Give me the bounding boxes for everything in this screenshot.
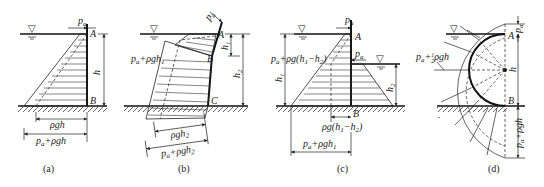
pressure-hatching [299,40,389,100]
label-rho-gh: ρgh [49,119,65,130]
label-rho-g-h1-h2: ρg(h1−h2) [321,121,363,134]
point-a: A [217,29,225,40]
label-pa-plus-half-rho-gh: pa+12ρgh [415,51,449,64]
radial-pressure-lines [434,26,505,155]
pressure-hatching [148,38,214,116]
svg-text:.: . [438,109,441,120]
panel-a: ▽ pa A B h ρgh pa+ρgh (a) [18,15,108,175]
water-surface-icon: ▽ [450,23,458,34]
caption-a: (a) [43,163,54,175]
label-h: h [507,67,518,72]
label-h1: h1 [219,42,232,51]
panel-b: ▽ pa A B C h1 h2 pa+ρgh1 [124,8,250,175]
caption-c: (c) [337,163,348,175]
pressure-hatching [35,40,86,100]
panel-c: ▽ ▽ pa A pa B pa+ρg(h1−h2) h1 [270,14,405,175]
point-a: A [354,31,362,42]
label-pa-plus-rho-gh1: pa+ρgh1 [302,138,337,151]
point-a: A [89,28,97,39]
label-h: h [91,70,102,75]
label-pa-plus-rho-gh: pa+ρgh [513,118,526,149]
water-surface-icon: ▽ [298,23,306,34]
water-surface-icon: ▽ [150,23,158,34]
hydrostatic-pressure-diagrams: ▽ pa A B h ρgh pa+ρgh (a) [0,0,544,187]
point-b: B [353,108,359,119]
label-pa-plus-rho-g-h1-h2: pa+ρg(h1−h2) [270,53,327,66]
caption-b: (b) [178,163,190,175]
point-c: C [211,95,218,106]
point-b: B [207,53,213,64]
label-pa: pa [202,8,218,24]
label-pa: pa [77,15,87,28]
point-b: B [508,95,514,106]
label-pa-right: pa [354,48,364,61]
water-surface-icon: ▽ [28,23,36,34]
label-pa-top: pa [344,14,354,27]
point-b: B [90,95,96,106]
ground-hatch [18,107,107,112]
label-h2: h2 [231,69,244,78]
panel-d: ▽ . pa A [415,16,526,175]
point-a: A [507,30,515,41]
water-surface-icon-right: ▽ [376,53,384,64]
label-pa-plus-rho-gh2: pa+ρgh2 [159,143,196,161]
label-h1: h1 [273,74,286,83]
label-rho-gh2: ρgh2 [169,127,190,143]
label-h2: h2 [384,83,397,92]
label-pa-plus-rho-gh: pa+ρgh [35,135,66,148]
caption-d: (d) [488,163,500,175]
